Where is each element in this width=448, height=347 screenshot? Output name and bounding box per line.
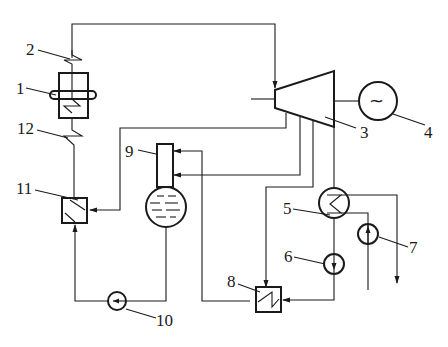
label-5: 5 — [283, 199, 292, 218]
label-8: 8 — [227, 272, 236, 291]
label-11: 11 — [16, 179, 32, 198]
label-10: 10 — [156, 311, 173, 330]
label-4: 4 — [424, 123, 433, 142]
circulating-water-pump — [358, 224, 378, 244]
label-2: 2 — [26, 40, 35, 59]
superheater — [64, 50, 82, 73]
steam-turbine — [251, 71, 360, 127]
deaerator — [146, 144, 186, 227]
condensate-to-deaerator-line — [174, 151, 250, 301]
label-12: 12 — [17, 119, 34, 138]
label-1: 1 — [16, 79, 25, 98]
feedwater-pump — [108, 292, 126, 310]
boiler — [50, 73, 96, 118]
label-6: 6 — [284, 247, 293, 266]
label-3: 3 — [360, 123, 369, 142]
power-plant-diagram: ~ — [0, 0, 448, 347]
label-9: 9 — [125, 142, 134, 161]
hp-extraction-line — [90, 113, 286, 210]
deaerator-extraction-line — [174, 117, 300, 175]
cooling-water-lines — [341, 195, 397, 290]
economizer — [64, 118, 82, 168]
condensate-pump — [324, 254, 344, 274]
lp-heater — [256, 287, 281, 312]
main-steam-line — [72, 24, 275, 88]
feedwater-line — [75, 225, 166, 301]
label-7: 7 — [409, 238, 418, 257]
generator-symbol: ~ — [369, 90, 384, 111]
generator: ~ — [359, 82, 397, 120]
hp-heater — [62, 198, 87, 223]
